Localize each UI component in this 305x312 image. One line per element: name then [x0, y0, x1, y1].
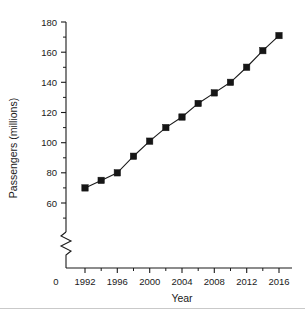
x-tick-label-1992: 1992	[74, 276, 95, 287]
data-point-marker	[98, 177, 104, 183]
x-tick-label-2008: 2008	[204, 276, 225, 287]
x-tick-label-2000: 2000	[139, 276, 160, 287]
data-point-marker	[276, 32, 282, 38]
data-point-marker	[179, 114, 185, 120]
data-series-markers	[82, 32, 282, 191]
data-point-marker	[130, 153, 136, 159]
passengers-line-chart: Passengers (millions)	[0, 0, 305, 312]
x-tick-label-1996: 1996	[107, 276, 128, 287]
chart-container: Passengers (millions)	[0, 0, 305, 312]
y-tick-label-140: 140	[41, 77, 57, 88]
x-tick-label-2012: 2012	[236, 276, 257, 287]
data-point-marker	[82, 185, 88, 191]
data-point-marker	[227, 79, 233, 85]
x-axis-major-ticks	[85, 268, 279, 273]
data-point-marker	[195, 100, 201, 106]
x-axis-title: Year	[171, 292, 193, 304]
x-axis-tick-labels: 1992 1996 2000 2004 2008 2012 2016	[74, 276, 289, 287]
y-tick-label-160: 160	[41, 47, 57, 58]
y-tick-label-120: 120	[41, 107, 57, 118]
y-tick-label-100: 100	[41, 137, 57, 148]
y-tick-label-60: 60	[46, 198, 57, 209]
x-tick-label-2004: 2004	[171, 276, 192, 287]
data-point-marker	[114, 170, 120, 176]
origin-label: 0	[53, 276, 58, 287]
y-axis-title: Passengers (millions)	[7, 98, 19, 198]
data-point-marker	[211, 90, 217, 96]
y-tick-label-180: 180	[41, 17, 57, 28]
data-series-line	[85, 36, 279, 188]
x-tick-label-2016: 2016	[268, 276, 289, 287]
data-point-marker	[163, 124, 169, 130]
footer-divider	[0, 308, 305, 309]
data-point-marker	[243, 64, 249, 70]
y-axis-break-icon	[61, 232, 71, 268]
data-point-marker	[146, 138, 152, 144]
y-tick-label-80: 80	[46, 167, 57, 178]
y-axis-tick-labels: 180 160 140 120 100 80 60	[41, 17, 57, 209]
data-point-marker	[260, 47, 266, 53]
y-axis-major-ticks	[61, 22, 66, 203]
